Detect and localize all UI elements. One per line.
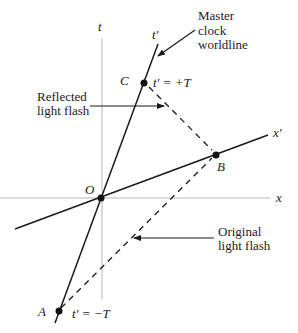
label-a: A <box>37 304 46 319</box>
master-callout-line3: worldline <box>198 37 248 52</box>
point-a <box>56 308 63 315</box>
label-b: B <box>217 159 225 174</box>
label-c: C <box>120 73 129 88</box>
reflected-callout-line2: light flash <box>37 103 90 118</box>
original-callout-line1: Original <box>218 224 262 239</box>
master-callout-arrow <box>158 30 195 56</box>
master-callout-line1: Master <box>198 8 235 23</box>
t-axis-label: t <box>98 19 102 34</box>
point-c <box>141 80 148 87</box>
point-o <box>98 195 105 202</box>
annotation-c: t′ = +T <box>153 75 192 90</box>
x-prime-label: x′ <box>272 125 282 140</box>
label-o: O <box>85 182 95 197</box>
x-axis-label: x <box>275 190 282 205</box>
reflected-light-flash <box>149 87 212 150</box>
annotation-a: t′ = −T <box>72 306 111 321</box>
spacetime-diagram: t x t′ x′ O C B A t′ = +T t′ = −T Master… <box>0 0 298 333</box>
master-callout-line2: clock <box>198 23 227 38</box>
point-b <box>213 152 220 159</box>
x-prime-axis <box>15 135 268 229</box>
t-prime-label: t′ <box>152 27 159 42</box>
reflected-callout-line1: Reflected <box>37 89 87 104</box>
original-light-flash <box>61 158 212 308</box>
original-callout-line2: light flash <box>218 238 271 253</box>
